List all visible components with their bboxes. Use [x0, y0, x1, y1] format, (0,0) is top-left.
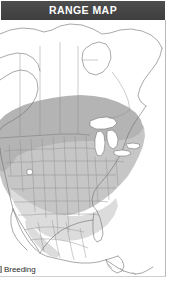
range-map-panel: RANGE MAP [0, 0, 172, 286]
map-legend: Breeding Year-round Nonbreeding [0, 264, 86, 277]
legend-item-year-round: Year-round [0, 275, 86, 277]
legend-label-year-round: Year-round [4, 275, 43, 277]
legend-swatch-breeding [0, 266, 2, 273]
legend-label-breeding: Breeding [4, 264, 36, 275]
map-canvas[interactable]: Breeding Year-round Nonbreeding [0, 20, 166, 277]
panel-header: RANGE MAP [1, 1, 165, 20]
legend-item-breeding: Breeding [0, 264, 86, 275]
page-title: RANGE MAP [49, 5, 117, 16]
north-america-map [0, 20, 166, 277]
